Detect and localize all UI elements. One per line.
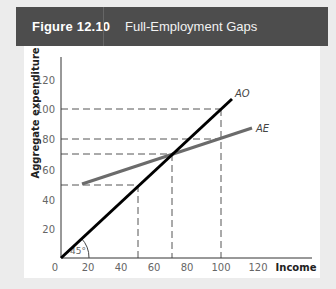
x-tick: 100 [211,262,230,273]
chart: 45° AO AE 20 40 60 80 100 120 0 20 40 60… [0,0,336,289]
x-tick: 20 [82,262,95,273]
ao-label: AO [234,88,250,99]
x-tick: 80 [181,262,194,273]
y-tick: 80 [42,134,55,145]
x-tick: 60 [148,262,161,273]
ao-line [61,99,232,258]
x-axis-label: Income [276,262,317,273]
x-tick: 120 [248,262,267,273]
y-axis-label: Aggregate expenditure [30,47,41,178]
y-tick: 60 [42,165,55,176]
x-tick-labels: 0 20 40 60 80 100 120 [52,262,268,273]
x-tick: 0 [52,262,58,273]
x-tick: 40 [115,262,128,273]
ae-label: AE [255,123,270,134]
ae-line [82,128,252,184]
y-tick: 40 [42,195,55,206]
y-tick: 20 [42,224,55,235]
